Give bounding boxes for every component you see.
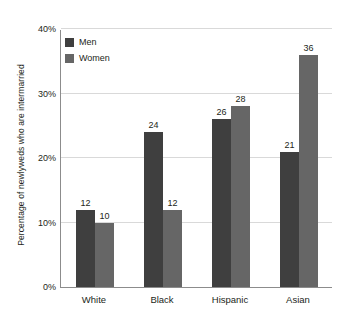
- legend-swatch-icon: [65, 38, 74, 47]
- x-tick-label-asian: Asian: [264, 294, 332, 306]
- y-axis-tick-labels: 0%10%20%30%40%: [0, 30, 56, 288]
- y-tick-label: 0%: [8, 283, 56, 292]
- y-tick-label: 40%: [8, 25, 56, 34]
- gridline-30%: [61, 93, 332, 94]
- bar-value-label: 24: [138, 120, 169, 130]
- bar-asian-women: [299, 55, 318, 287]
- plot-area: 1210241226282136: [60, 30, 332, 288]
- bar-black-men: [144, 132, 163, 287]
- legend-swatch-icon: [65, 54, 74, 63]
- x-tick-label-hispanic: Hispanic: [196, 294, 264, 306]
- bar-chart: Percentage of newlyweds who are intermar…: [0, 0, 345, 335]
- y-tick-label: 30%: [8, 90, 56, 99]
- legend-label: Women: [79, 54, 110, 63]
- legend-item-men: Men: [65, 36, 110, 49]
- bar-asian-men: [280, 152, 299, 287]
- bar-white-women: [95, 223, 114, 288]
- bar-hispanic-women: [231, 106, 250, 287]
- bar-value-label: 12: [157, 198, 188, 208]
- bar-value-label: 10: [89, 211, 120, 221]
- bar-hispanic-men: [212, 119, 231, 287]
- gridline-40%: [61, 28, 332, 29]
- bar-value-label: 28: [225, 94, 256, 104]
- chart-legend: MenWomen: [65, 36, 110, 68]
- legend-label: Men: [79, 38, 97, 47]
- bar-value-label: 36: [293, 43, 324, 53]
- y-tick-label: 10%: [8, 219, 56, 228]
- x-tick-label-black: Black: [128, 294, 196, 306]
- bar-black-women: [163, 210, 182, 287]
- bar-white-men: [76, 210, 95, 287]
- x-tick-label-white: White: [60, 294, 128, 306]
- legend-item-women: Women: [65, 52, 110, 65]
- bar-value-label: 12: [70, 198, 101, 208]
- y-tick-label: 20%: [8, 154, 56, 163]
